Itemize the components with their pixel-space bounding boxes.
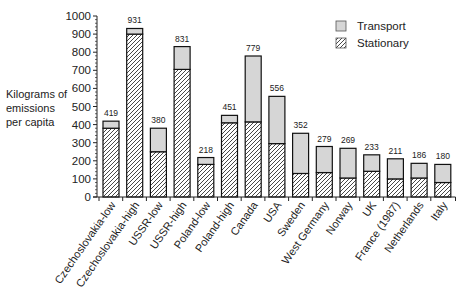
- stationary-segment: [127, 34, 143, 197]
- stationary-segment: [411, 178, 427, 197]
- bar-total-label: 931: [128, 15, 142, 25]
- bar-poland-high: 451: [222, 102, 238, 197]
- y-tick-label: 200: [72, 155, 91, 167]
- stationary-segment: [293, 173, 309, 197]
- transport-swatch-icon: [336, 21, 346, 31]
- transport-segment: [150, 128, 166, 152]
- stationary-segment: [174, 69, 190, 197]
- transport-segment: [222, 115, 238, 122]
- transport-segment: [245, 56, 261, 122]
- transport-segment: [269, 96, 285, 143]
- bar-poland-low: 218: [198, 145, 214, 197]
- legend-item-stationary: Stationary: [336, 37, 409, 49]
- bar-total-label: 218: [199, 145, 213, 155]
- stationary-segment: [435, 183, 451, 197]
- bar-total-label: 352: [294, 120, 308, 130]
- legend-label-transport: Transport: [357, 20, 407, 32]
- transport-segment: [103, 121, 119, 128]
- stationary-segment: [316, 173, 332, 197]
- bar-total-label: 556: [270, 83, 284, 93]
- y-tick-label: 300: [72, 137, 91, 149]
- stationary-segment: [364, 171, 380, 197]
- y-tick-label: 900: [72, 28, 91, 40]
- bar-france-1987-: 211: [387, 146, 403, 197]
- bar-total-label: 211: [389, 146, 403, 156]
- stationary-swatch-icon: [336, 38, 346, 48]
- bar-total-label: 779: [246, 43, 260, 53]
- bar-total-label: 186: [412, 150, 426, 160]
- bar-total-label: 269: [341, 135, 355, 145]
- bar-total-label: 279: [317, 134, 331, 144]
- transport-segment: [411, 163, 427, 178]
- legend-label-stationary: Stationary: [357, 37, 409, 49]
- transport-segment: [127, 28, 143, 34]
- transport-segment: [316, 147, 332, 173]
- bar-total-label: 180: [436, 151, 450, 161]
- stationary-segment: [150, 152, 166, 197]
- y-tick-label: 500: [72, 101, 91, 113]
- y-tick-label: 0: [85, 191, 91, 203]
- bar-total-label: 419: [104, 108, 118, 118]
- bar-sweden: 352: [293, 120, 309, 197]
- legend: Transport Stationary: [336, 20, 409, 49]
- stationary-segment: [103, 128, 119, 197]
- bar-usa: 556: [269, 83, 285, 197]
- bar-total-label: 451: [222, 102, 236, 112]
- bar-total-label: 831: [175, 34, 189, 44]
- transport-segment: [387, 159, 403, 179]
- y-tick-label: 400: [72, 119, 91, 131]
- stationary-segment: [222, 123, 238, 197]
- y-axis: 01002003004005006007008009001000: [65, 10, 97, 203]
- bar-italy: 180: [435, 151, 451, 197]
- transport-segment: [293, 133, 309, 173]
- stationary-segment: [387, 179, 403, 197]
- y-tick-label: 700: [72, 64, 91, 76]
- y-axis-title: Kilograms of emissions per capita: [6, 88, 70, 128]
- transport-segment: [364, 155, 380, 171]
- x-axis: Czechoslovakia-lowCzechoslovakia-highUSS…: [52, 197, 455, 289]
- bar-canada: 779: [245, 43, 261, 197]
- transport-segment: [435, 164, 451, 182]
- bar-total-label: 380: [151, 115, 165, 125]
- stacked-bar-chart: Kilograms of emissions per capita 010020…: [0, 0, 464, 289]
- y-tick-label: 600: [72, 82, 91, 94]
- stationary-segment: [245, 122, 261, 197]
- bar-czechoslovakia-high: 931: [127, 15, 143, 197]
- bar-ussr-low: 380: [150, 115, 166, 197]
- y-tick-label: 800: [72, 46, 91, 58]
- transport-segment: [174, 47, 190, 70]
- bar-czechoslovakia-low: 419: [103, 108, 119, 197]
- transport-segment: [340, 148, 356, 178]
- stationary-segment: [198, 164, 214, 197]
- stationary-segment: [269, 144, 285, 197]
- y-tick-label: 1000: [65, 10, 91, 22]
- bar-norway: 269: [340, 135, 356, 197]
- bar-netherlands: 186: [411, 150, 427, 197]
- x-tick-label: Italy: [428, 199, 450, 223]
- bar-total-label: 233: [365, 142, 379, 152]
- transport-segment: [198, 158, 214, 165]
- bar-uk: 233: [364, 142, 380, 197]
- x-tick-label: USA: [261, 199, 284, 225]
- x-tick-label: UK: [360, 199, 379, 219]
- bar-ussr-high: 831: [174, 34, 190, 197]
- legend-item-transport: Transport: [336, 20, 407, 32]
- stationary-segment: [340, 178, 356, 197]
- bar-west-germany: 279: [316, 134, 332, 197]
- y-tick-label: 100: [72, 173, 91, 185]
